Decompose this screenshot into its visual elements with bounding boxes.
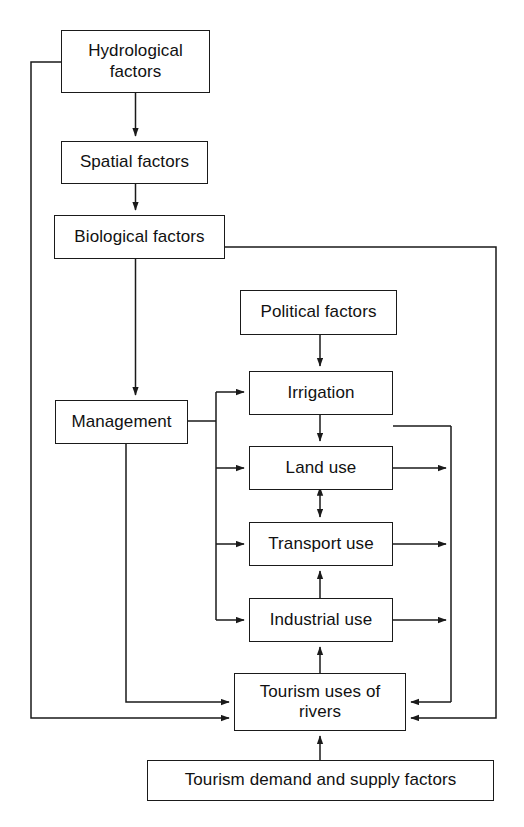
edge-management-to-tourismuses — [126, 444, 229, 702]
node-land-use-label: Land use — [282, 458, 361, 478]
node-industrial-use-label: Industrial use — [266, 610, 377, 630]
node-spatial-factors[interactable]: Spatial factors — [61, 141, 208, 184]
node-transport-use[interactable]: Transport use — [249, 522, 393, 566]
node-tourism-demand-and-supply-factors-label: Tourism demand and supply factors — [181, 770, 461, 790]
node-tourism-uses-of-rivers-label: Tourism uses of rivers — [256, 682, 385, 722]
node-hydrological-factors-label: Hydrological factors — [84, 41, 187, 81]
node-land-use[interactable]: Land use — [249, 446, 393, 490]
node-irrigation-label: Irrigation — [283, 383, 358, 403]
node-biological-factors-label: Biological factors — [70, 227, 208, 247]
node-management[interactable]: Management — [55, 400, 188, 444]
node-political-factors[interactable]: Political factors — [240, 290, 397, 335]
node-biological-factors[interactable]: Biological factors — [54, 215, 225, 259]
node-transport-use-label: Transport use — [264, 534, 378, 554]
node-tourism-demand-and-supply-factors[interactable]: Tourism demand and supply factors — [147, 760, 494, 801]
node-industrial-use[interactable]: Industrial use — [249, 598, 393, 642]
node-hydrological-factors[interactable]: Hydrological factors — [61, 30, 210, 93]
node-political-factors-label: Political factors — [256, 302, 380, 322]
node-tourism-uses-of-rivers[interactable]: Tourism uses of rivers — [234, 673, 406, 731]
node-spatial-factors-label: Spatial factors — [76, 152, 193, 172]
node-management-label: Management — [67, 412, 175, 432]
node-irrigation[interactable]: Irrigation — [249, 371, 393, 415]
flowchart-canvas: Hydrological factors Spatial factors Bio… — [0, 0, 524, 827]
